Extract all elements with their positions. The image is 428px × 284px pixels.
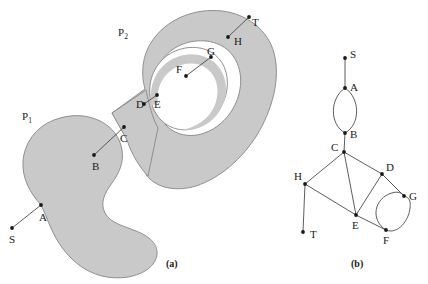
panel-a-label-F: F bbox=[176, 63, 182, 75]
obstacle-p2-label: P2 bbox=[118, 26, 128, 41]
visibility-graph-figure: P1 P2 S A B C bbox=[0, 0, 428, 284]
panel-b-label-S: S bbox=[350, 48, 356, 60]
panel-b-label-H: H bbox=[294, 170, 302, 182]
panel-b-node-C bbox=[342, 150, 346, 154]
panel-b-edge-F-G-right bbox=[386, 196, 410, 231]
panel-b-edge-A-B-left bbox=[333, 88, 345, 133]
panel-a-node-S bbox=[10, 226, 14, 230]
panel-a-label-S: S bbox=[9, 233, 15, 245]
panel-b-label-A: A bbox=[350, 81, 358, 93]
panel-a-obstacles bbox=[23, 10, 276, 277]
panel-b-edge-C-E bbox=[344, 152, 356, 215]
panel-a-label-A: A bbox=[39, 211, 47, 223]
panel-b-node-B bbox=[343, 131, 347, 135]
panel-a-label-D: D bbox=[136, 98, 144, 110]
panel-a-edge-S-A bbox=[12, 205, 41, 228]
panel-a-node-H bbox=[226, 35, 230, 39]
panel-a-node-T bbox=[247, 15, 251, 19]
panel-b-edge-H-T bbox=[303, 184, 305, 232]
panel-b-label-D: D bbox=[386, 161, 394, 173]
panel-a-region-labels: P1 P2 bbox=[22, 26, 128, 125]
panel-a-caption: (a) bbox=[166, 258, 178, 270]
panel-b-label-F: F bbox=[383, 234, 389, 246]
panel-b-node-E bbox=[354, 213, 358, 217]
panel-b-label-E: E bbox=[352, 219, 359, 231]
panel-a-label-C: C bbox=[120, 132, 127, 144]
panel-b-node-F bbox=[384, 228, 388, 232]
panel-a-node-A bbox=[39, 203, 43, 207]
panel-a-node-F bbox=[184, 74, 188, 78]
panel-b-node-G bbox=[402, 194, 406, 198]
panel-b-node-S bbox=[343, 56, 347, 60]
panel-b-node-T bbox=[301, 230, 305, 234]
panel-b-edge-C-D bbox=[344, 152, 382, 174]
panel-a-label-T: T bbox=[252, 16, 259, 28]
obstacle-p1-label: P1 bbox=[22, 110, 32, 125]
panel-b-edge-E-F bbox=[356, 215, 386, 230]
panel-b-caption: (b) bbox=[351, 258, 363, 270]
panel-b-edge-A-B-right bbox=[345, 88, 357, 133]
figure-canvas: P1 P2 S A B C bbox=[0, 0, 428, 284]
panel-a-label-H: H bbox=[234, 35, 242, 47]
panel-b-label-B: B bbox=[350, 128, 357, 140]
panel-b-label-G: G bbox=[409, 190, 417, 202]
panel-b-node-A bbox=[343, 86, 347, 90]
panel-b-edge-D-E bbox=[356, 174, 382, 215]
panel-b-edge-B-C bbox=[344, 133, 345, 152]
panel-a-label-E: E bbox=[154, 98, 161, 110]
panel-b-edge-E-H bbox=[305, 184, 356, 215]
panel-b-edge-C-H bbox=[305, 152, 344, 184]
panel-a-label-B: B bbox=[92, 160, 99, 172]
panel-b-node-D bbox=[380, 172, 384, 176]
panel-a-node-C bbox=[122, 125, 126, 129]
panel-b-node-H bbox=[303, 182, 307, 186]
panel-a-node-E bbox=[155, 93, 159, 97]
panel-b-edge-F-G-left bbox=[376, 192, 404, 230]
panel-b-label-C: C bbox=[331, 141, 338, 153]
panel-a-node-B bbox=[92, 153, 96, 157]
panel-a-label-G: G bbox=[207, 45, 215, 57]
panel-b-label-T: T bbox=[310, 228, 317, 240]
